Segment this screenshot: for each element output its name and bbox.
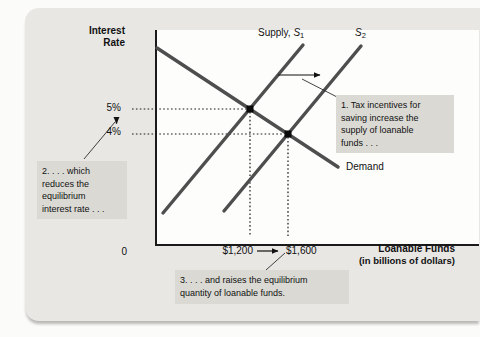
note-2-line1: 2. . . . which bbox=[42, 165, 122, 178]
note-2-line4: interest rate . . . bbox=[42, 203, 122, 216]
origin-label: 0 bbox=[98, 246, 127, 258]
s1-subscript: 1 bbox=[300, 31, 304, 40]
note-3-line2: quantity of loanable funds. bbox=[180, 287, 344, 300]
supply-s2-label: S2 bbox=[355, 27, 366, 42]
note-1-line4: funds . . . bbox=[341, 137, 449, 150]
note-1-line2: saving increase the bbox=[341, 112, 449, 125]
x-axis-title-line1: Loanable Funds bbox=[330, 243, 455, 255]
y-axis-title-line2: Rate bbox=[60, 37, 125, 49]
s2-subscript: 2 bbox=[362, 31, 366, 40]
note-1-tax-incentives: 1. Tax incentives for saving increase th… bbox=[336, 95, 454, 153]
note-2-line2: reduces the bbox=[42, 178, 122, 191]
x-axis-title-line2: (in billions of dollars) bbox=[330, 255, 455, 267]
y-axis-title-line1: Interest bbox=[60, 25, 125, 37]
note-1-line1: 1. Tax incentives for bbox=[341, 99, 449, 112]
demand-label: Demand bbox=[346, 161, 384, 173]
note-3-line1: 3. . . . and raises the equilibrium bbox=[180, 274, 344, 287]
supply-word: Supply, bbox=[258, 27, 293, 38]
x-tick-1600: $1,600 bbox=[286, 245, 346, 257]
s2-letter: S bbox=[355, 27, 362, 38]
supply-s1-label: Supply, S1 bbox=[258, 27, 304, 42]
y-axis-title: Interest Rate bbox=[60, 25, 125, 49]
figure-canvas: Interest Rate Loanable Funds (in billion… bbox=[0, 0, 480, 337]
note-1-line3: supply of loanable bbox=[341, 124, 449, 137]
note-2-reduces-rate: 2. . . . which reduces the equilibrium i… bbox=[37, 161, 127, 219]
note-2-line3: equilibrium bbox=[42, 190, 122, 203]
x-axis-title: Loanable Funds (in billions of dollars) bbox=[330, 243, 455, 267]
note-3-raises-quantity: 3. . . . and raises the equilibrium quan… bbox=[175, 270, 349, 304]
x-tick-1200: $1,200 bbox=[203, 245, 253, 257]
y-tick-5-percent: 5% bbox=[88, 102, 121, 114]
y-tick-4-percent: 4% bbox=[88, 126, 121, 138]
